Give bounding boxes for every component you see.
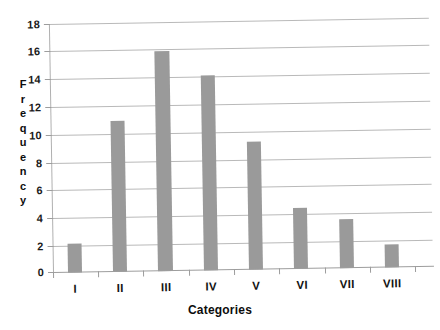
y-tick-label-wrap-18: 18 <box>0 18 40 31</box>
gridline-8 <box>51 157 431 164</box>
y-tick-label-wrap-0: 0 <box>0 266 44 279</box>
y-tick-label-0: 0 <box>4 266 44 279</box>
bar-chart: 18 16 14 12 10 8 6 4 2 0 I II III <box>0 0 440 330</box>
y-tick-label-4: 4 <box>3 212 43 225</box>
y-tick-label-wrap-2: 2 <box>0 240 44 253</box>
x-tick-1 <box>53 272 54 278</box>
x-tick-label-iv: IV <box>188 280 234 293</box>
y-tick-4 <box>47 218 53 219</box>
y-axis-title-letter-n: n <box>16 164 30 179</box>
y-tick-18 <box>44 24 50 25</box>
bar-category-iii <box>154 51 173 271</box>
x-axis-title: Categories <box>0 303 440 317</box>
x-tick-4 <box>189 270 190 276</box>
y-tick-2 <box>48 246 54 247</box>
y-tick-label-2: 2 <box>3 240 43 253</box>
x-tick-label-i: I <box>52 282 98 295</box>
x-tick-6 <box>279 268 280 274</box>
y-tick-14 <box>45 79 51 80</box>
x-tick-2 <box>98 271 99 277</box>
y-tick-12 <box>45 107 51 108</box>
bar-category-ii <box>111 121 128 272</box>
gridline-6 <box>52 184 432 191</box>
plot-area <box>49 14 433 272</box>
x-tick-8 <box>370 267 371 273</box>
x-tick-9 <box>415 266 416 272</box>
y-axis-title-letter-u: u <box>16 135 30 150</box>
gridline-16 <box>49 45 429 52</box>
bar-category-viii <box>385 244 399 267</box>
bar-category-vii <box>339 219 354 268</box>
y-axis-title-letter-c: c <box>16 179 30 194</box>
y-axis-title-letter-f: F <box>16 77 30 92</box>
x-tick-label-ii: II <box>97 282 143 295</box>
y-axis-title-letter-q: q <box>16 121 30 136</box>
y-tick-16 <box>44 51 50 52</box>
x-tick-7 <box>325 267 326 273</box>
x-tick-label-viii: VIII <box>369 277 415 290</box>
gridline-10 <box>51 129 431 136</box>
x-tick-label-iii: III <box>143 281 189 294</box>
y-tick-label-wrap-16: 16 <box>0 45 40 58</box>
chart-tilt-layer: 18 16 14 12 10 8 6 4 2 0 I II III <box>0 0 440 330</box>
x-tick-label-vii: VII <box>324 278 370 291</box>
x-tick-label-v: V <box>233 279 279 292</box>
bar-category-vi <box>293 208 308 269</box>
x-tick-label-vi: VI <box>279 278 325 291</box>
y-tick-label-18: 18 <box>0 18 40 31</box>
gridline-18 <box>49 18 429 25</box>
y-tick-6 <box>47 190 53 191</box>
x-tick-3 <box>143 270 144 276</box>
y-tick-label-16: 16 <box>0 45 40 58</box>
gridline-12 <box>50 101 430 108</box>
x-tick-5 <box>234 269 235 275</box>
y-axis-title-letter-y: y <box>16 193 30 208</box>
bar-category-v <box>247 142 263 270</box>
y-axis-title-letter-e2: e <box>16 150 30 165</box>
y-tick-8 <box>46 163 52 164</box>
y-axis-title: F r e q u e n c y <box>16 77 30 208</box>
gridline-2 <box>53 240 433 247</box>
bar-category-i <box>68 244 82 273</box>
y-tick-label-wrap-4: 4 <box>0 212 43 225</box>
gridline-4 <box>52 212 432 219</box>
gridline-14 <box>50 73 430 80</box>
y-axis-title-letter-r: r <box>16 92 30 107</box>
y-tick-10 <box>46 135 52 136</box>
y-axis-title-letter-e1: e <box>16 106 30 121</box>
